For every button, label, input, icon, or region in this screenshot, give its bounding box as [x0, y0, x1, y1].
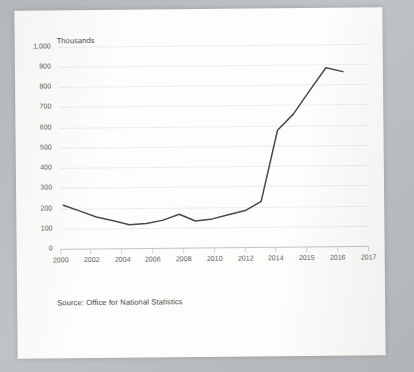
data-series-line — [62, 68, 344, 226]
x-tick-2002: 2002 — [75, 256, 109, 263]
photographed-page: Thousands 1,000 900 800 700 600 500 400 … — [0, 0, 414, 372]
line-chart: Thousands 1,000 900 800 700 600 500 400 … — [14, 7, 385, 359]
x-tick-2004: 2004 — [106, 256, 140, 263]
x-tick-2008: 2008 — [167, 255, 201, 262]
paper-sheet: Thousands 1,000 900 800 700 600 500 400 … — [14, 7, 385, 359]
x-tick-2000: 2000 — [44, 256, 78, 263]
x-tick-2012: 2012 — [229, 254, 263, 261]
x-tick-2016: 2016 — [321, 254, 355, 261]
chart-source-caption: Source: Office for National Statistics — [57, 297, 183, 307]
x-tick-2014: 2014 — [259, 254, 293, 261]
x-tick-2017: 2017 — [352, 253, 386, 260]
x-tick-2010: 2010 — [198, 255, 232, 262]
x-tick-2015: 2015 — [290, 254, 324, 261]
x-tick-2006: 2006 — [136, 255, 170, 262]
